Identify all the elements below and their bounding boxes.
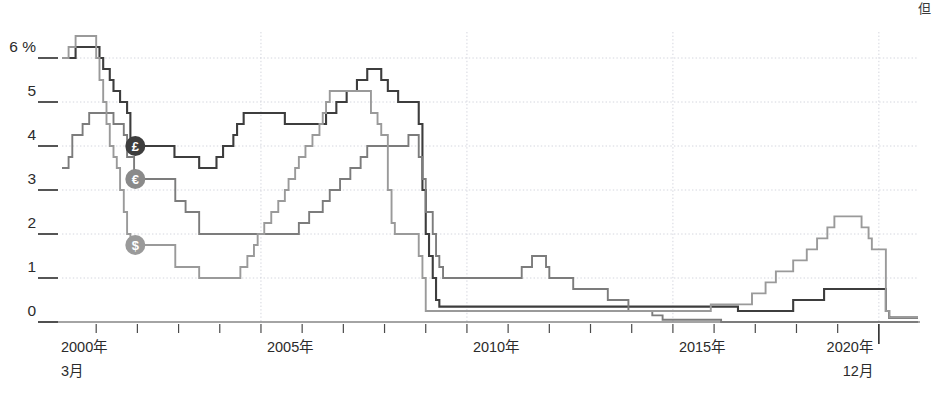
- series-markers-group: £€$: [125, 136, 145, 255]
- y-axis-ticks-group: [38, 58, 58, 322]
- y-axis-tick-label: 4: [27, 126, 36, 143]
- x-axis-labels-group: 2000年2005年2010年2015年2020年3月12月: [61, 339, 873, 379]
- y-axis-tick-label: 0: [27, 302, 36, 319]
- series-group: [62, 36, 918, 322]
- x-axis-tick-label: 2000年: [61, 339, 107, 355]
- series-marker-glyph-us-dollar: $: [132, 238, 140, 253]
- policy-rate-line-chart: 0123456 % 2000年2005年2010年2015年2020年3月12月…: [0, 0, 938, 405]
- series-marker-glyph-pound-sterling: £: [132, 139, 140, 154]
- x-axis-tick-label: 2010年: [473, 339, 519, 355]
- x-axis-start-month-label: 3月: [61, 363, 83, 379]
- y-axis-tick-label: 5: [27, 82, 36, 99]
- series-marker-glyph-euro: €: [132, 172, 139, 187]
- y-axis-tick-label: 6 %: [9, 38, 36, 55]
- series-line-us-dollar: [62, 36, 918, 318]
- chart-container: 但 0123456 % 2000年2005年2010年2015年2020年3月1…: [0, 0, 938, 405]
- x-axis-tick-label: 2005年: [267, 339, 313, 355]
- y-axis-tick-label: 1: [27, 258, 36, 275]
- x-axis-tick-label: 2015年: [679, 339, 725, 355]
- series-line-euro: [62, 113, 918, 322]
- x-axis-end-month-label: 12月: [843, 363, 873, 379]
- y-axis-tick-label: 2: [27, 214, 36, 231]
- y-axis-tick-label: 3: [27, 170, 36, 187]
- y-axis-labels-group: 0123456 %: [9, 38, 36, 319]
- series-line-pound-sterling: [62, 47, 918, 318]
- x-axis-tick-label: 2020年: [827, 339, 873, 355]
